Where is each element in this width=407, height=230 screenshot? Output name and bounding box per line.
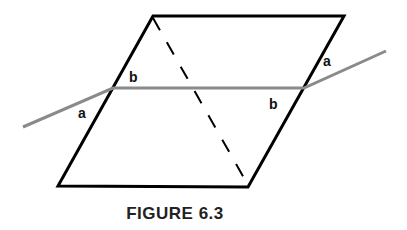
figure-caption: FIGURE 6.3 bbox=[0, 204, 350, 224]
dashed-diagonal bbox=[153, 18, 248, 185]
label-b-right: b bbox=[269, 96, 278, 112]
geometry-diagram: b a a b bbox=[0, 0, 407, 230]
label-a-right: a bbox=[323, 53, 331, 69]
label-a-left: a bbox=[78, 105, 86, 121]
label-b-left: b bbox=[129, 69, 138, 85]
